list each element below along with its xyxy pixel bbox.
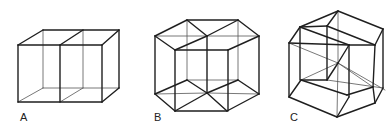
edge-line	[337, 97, 349, 117]
hypercube-diagram	[0, 0, 386, 133]
edge-line	[347, 87, 373, 95]
edge-line	[300, 26, 327, 27]
hidden-edge-line	[338, 63, 373, 87]
hidden-edge-line	[338, 63, 385, 90]
figure-b-hexagonal-hypercube	[155, 20, 259, 111]
edge-line	[338, 11, 383, 29]
edge-line	[338, 45, 349, 63]
figure-a-double-cube	[18, 30, 119, 102]
edge-line	[337, 103, 375, 117]
edge-line	[155, 94, 175, 111]
figure-label-c: C	[290, 112, 298, 123]
edge-line	[238, 80, 259, 94]
edge-line	[373, 45, 375, 87]
edge-line	[375, 88, 383, 103]
edge-line	[373, 87, 375, 103]
edge-line	[375, 29, 383, 45]
hidden-edge-line	[207, 93, 259, 94]
edge-line	[187, 20, 207, 36]
edge-line	[175, 93, 207, 111]
edge-line	[228, 36, 259, 50]
edge-line	[175, 36, 207, 50]
hidden-edge-line	[18, 88, 43, 102]
figure-label-a: A	[20, 112, 27, 123]
hidden-edge-line	[60, 88, 83, 102]
edge-line	[102, 88, 119, 102]
edge-line	[289, 27, 300, 43]
edge-line	[289, 43, 349, 45]
edge-line	[289, 80, 301, 97]
figure-c-tesseract	[289, 11, 385, 117]
edge-line	[207, 93, 227, 111]
edge-line	[102, 30, 119, 45]
edge-line	[327, 26, 375, 45]
hidden-edge-line	[289, 43, 338, 63]
edge-line	[300, 27, 349, 45]
edge-line	[155, 36, 175, 50]
edge-line	[60, 30, 83, 45]
edge-line	[238, 20, 259, 36]
edge-line	[227, 94, 259, 111]
figure-label-b: B	[154, 112, 161, 123]
edge-line	[207, 20, 238, 36]
edge-line	[187, 80, 207, 93]
edge-line	[155, 80, 187, 94]
hidden-edge-line	[155, 93, 207, 94]
edge-line	[207, 80, 238, 93]
hidden-edge-line	[337, 63, 338, 117]
edge-line	[155, 20, 187, 36]
edge-line	[18, 30, 43, 45]
